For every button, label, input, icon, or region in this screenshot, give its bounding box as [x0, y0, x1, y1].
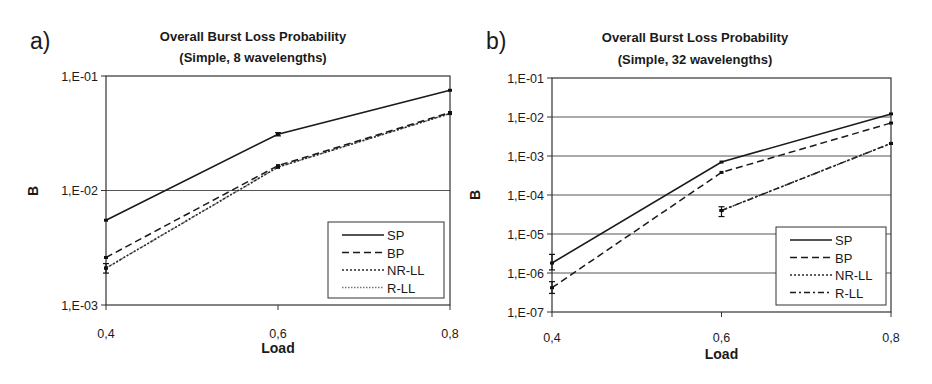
- data-marker: [448, 89, 452, 92]
- data-marker: [889, 122, 893, 125]
- x-tick-label: 0,6: [713, 331, 730, 345]
- chart-b: b)Overall Burst Loss Probability(Simple,…: [467, 28, 900, 362]
- data-marker: [720, 161, 724, 164]
- data-marker: [104, 219, 108, 222]
- x-axis-title: Load: [705, 346, 738, 362]
- series-line-r-ll: [722, 143, 892, 210]
- panel-label: a): [30, 28, 50, 54]
- legend-label: SP: [835, 233, 852, 248]
- x-axis-title: Load: [261, 340, 294, 356]
- legend-label: BP: [835, 251, 852, 266]
- legend-label: SP: [387, 228, 404, 243]
- y-tick-label: 1,E-01: [507, 72, 544, 86]
- x-tick-label: 0,8: [882, 331, 899, 345]
- legend: [328, 222, 444, 298]
- chart-subtitle: (Simple, 32 wavelengths): [618, 52, 773, 67]
- data-marker: [550, 262, 554, 265]
- data-marker: [889, 112, 893, 115]
- legend-label: R-LL: [387, 281, 415, 296]
- data-marker: [104, 267, 108, 270]
- data-marker: [889, 142, 893, 145]
- y-tick-label: 1,E-01: [61, 70, 98, 84]
- data-marker: [276, 133, 280, 136]
- panel-label: b): [486, 28, 506, 54]
- y-tick-label: 1,E-07: [507, 306, 544, 320]
- data-marker: [448, 111, 452, 114]
- y-tick-label: 1,E-02: [507, 111, 544, 125]
- chart-subtitle: (Simple, 8 wavelengths): [179, 50, 326, 65]
- x-tick-label: 0,4: [543, 331, 560, 345]
- chart-title: Overall Burst Loss Probability: [602, 30, 789, 45]
- y-axis-title: B: [25, 186, 41, 196]
- y-axis-title: B: [467, 190, 483, 200]
- legend-label: R-LL: [835, 286, 863, 301]
- y-tick-label: 1,E-03: [507, 150, 544, 164]
- figure: a)Overall Burst Loss Probability(Simple,…: [0, 0, 932, 384]
- y-tick-label: 1,E-02: [61, 184, 98, 198]
- legend-label: BP: [387, 246, 404, 261]
- chart-title: Overall Burst Loss Probability: [160, 29, 347, 44]
- chart-a: a)Overall Burst Loss Probability(Simple,…: [25, 28, 459, 356]
- data-marker: [104, 256, 108, 259]
- legend: [776, 227, 886, 305]
- data-marker: [550, 286, 554, 289]
- series-line-sp: [106, 90, 450, 220]
- x-tick-label: 0,8: [441, 327, 458, 341]
- data-marker: [720, 171, 724, 174]
- y-tick-label: 1,E-06: [507, 267, 544, 281]
- data-marker: [276, 164, 280, 167]
- y-tick-label: 1,E-05: [507, 228, 544, 242]
- data-marker: [720, 209, 724, 212]
- y-tick-label: 1,E-04: [507, 189, 544, 203]
- x-tick-label: 0,6: [269, 327, 286, 341]
- x-tick-label: 0,4: [97, 327, 114, 341]
- y-tick-label: 1,E-03: [61, 299, 98, 313]
- legend-label: NR-LL: [835, 268, 873, 283]
- legend-label: NR-LL: [387, 263, 425, 278]
